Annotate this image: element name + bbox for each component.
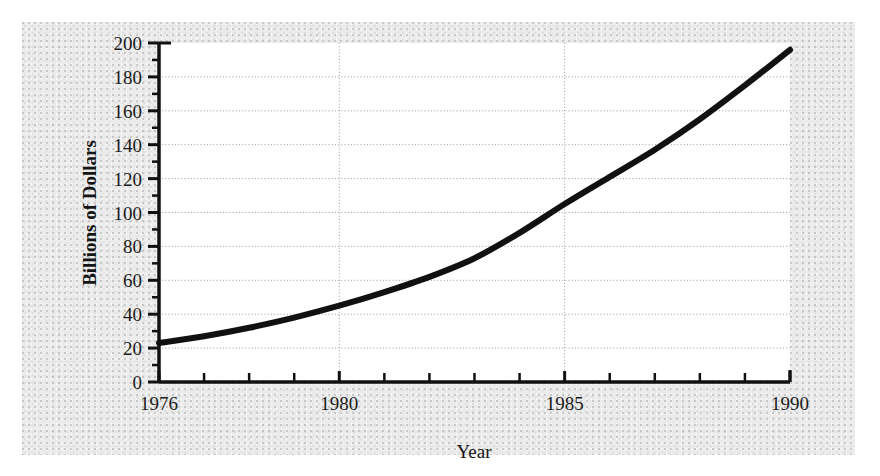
- y-axis-tick-label: 20: [123, 338, 142, 359]
- y-axis-tick-label: 160: [114, 101, 143, 122]
- y-axis-tick-label: 80: [123, 236, 142, 257]
- figure-root: 020406080100120140160180200 197619801985…: [0, 0, 880, 476]
- y-axis-tick-label: 120: [114, 169, 143, 190]
- plot-area-background: [159, 43, 790, 382]
- x-axis-title: Year: [456, 441, 492, 462]
- y-axis-tick-label: 40: [123, 304, 142, 325]
- y-axis-tick-label: 60: [123, 270, 142, 291]
- y-axis-tick-label: 140: [114, 135, 143, 156]
- x-axis-tick-labels: 1976198019851990: [140, 393, 809, 414]
- y-axis-tick-labels: 020406080100120140160180200: [114, 33, 143, 393]
- x-axis-tick-label: 1985: [546, 393, 584, 414]
- y-axis-tick-label: 180: [114, 67, 143, 88]
- y-axis-tick-label: 200: [114, 33, 143, 54]
- x-axis-tick-label: 1980: [320, 393, 358, 414]
- y-axis-tick-label: 0: [133, 372, 143, 393]
- y-axis-tick-label: 100: [114, 203, 143, 224]
- x-axis-tick-label: 1976: [140, 393, 178, 414]
- y-axis-title: Billions of Dollars: [79, 140, 100, 286]
- chart-canvas: 020406080100120140160180200 197619801985…: [0, 0, 880, 476]
- x-axis-tick-label: 1990: [771, 393, 809, 414]
